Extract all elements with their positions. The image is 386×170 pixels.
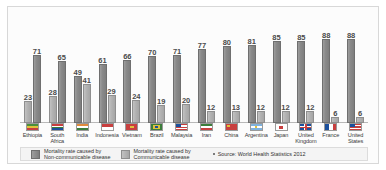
legend-item-non-communicable: Mortality rate caused by Non-communicabl… (31, 148, 111, 161)
axis-cell: United Kingdom (293, 123, 318, 147)
bar-value-label: 41 (82, 77, 90, 85)
bar-value-label: 61 (98, 57, 106, 65)
bar-group: 2865 (45, 15, 70, 123)
bar-wrapper: 85 (297, 15, 305, 123)
axis-cell: Ethiopia (20, 123, 45, 147)
bar-value-label: 19 (157, 98, 165, 106)
bar-wrapper: 80 (223, 15, 231, 123)
flag-icon-japan (275, 123, 288, 131)
bar-value-label: 88 (322, 32, 330, 40)
country-label: Argentina (245, 132, 268, 138)
bar-group: 2371 (20, 15, 45, 123)
bar-wrapper: 24 (132, 15, 140, 123)
bar-value-label: 80 (223, 39, 231, 47)
axis-cell: France (318, 123, 343, 147)
source-note: Source: World Health Statistics 2012 (213, 151, 306, 157)
flag-icon-indonesia (101, 123, 114, 131)
flag-icon-china (225, 123, 238, 131)
bar-wrapper: 71 (173, 15, 181, 123)
bar-communicable: 12 (282, 111, 290, 123)
flag-icon-vietnam (125, 123, 138, 131)
bar-wrapper: 71 (33, 15, 41, 123)
bar-wrapper: 70 (148, 15, 156, 123)
axis-cell: Malaysia (169, 123, 194, 147)
chart-card: 2371286549416129662470197120771280138112… (7, 6, 379, 164)
bar-wrapper: 28 (49, 15, 57, 123)
bar-communicable: 24 (132, 100, 140, 123)
bar-value-label: 81 (247, 38, 255, 46)
bar-value-label: 85 (272, 34, 280, 42)
bar-value-label: 70 (148, 49, 156, 57)
country-label: India (76, 132, 88, 138)
bar-wrapper: 12 (257, 15, 265, 123)
bar-wrapper: 29 (108, 15, 116, 123)
bar-group: 886 (318, 15, 343, 123)
axis-cell: India (70, 123, 95, 147)
bar-group: 8512 (269, 15, 294, 123)
category-axis: EthiopiaSouth AfricaIndiaIndonesiaVietna… (20, 123, 368, 147)
bar-non-communicable: 65 (58, 61, 66, 123)
legend-swatch-non-communicable (31, 150, 40, 159)
country-label: South Africa (50, 132, 64, 144)
country-label: United States (348, 132, 364, 144)
flag-icon-ethiopia (26, 123, 39, 131)
bar-value-label: 12 (281, 104, 289, 112)
bar-non-communicable: 88 (347, 39, 355, 123)
bar-groups: 2371286549416129662470197120771280138112… (20, 15, 368, 123)
bar-wrapper: 6 (331, 15, 339, 123)
bar-group: 6624 (119, 15, 144, 123)
bar-communicable: 13 (232, 111, 240, 123)
bar-value-label: 71 (173, 48, 181, 56)
bar-communicable: 12 (257, 111, 265, 123)
legend-label-communicable: Mortality rate caused by Communicable di… (134, 148, 191, 161)
bar-group: 7019 (144, 15, 169, 123)
axis-cell: Argentina (244, 123, 269, 147)
bar-wrapper: 88 (322, 15, 330, 123)
bar-wrapper: 19 (157, 15, 165, 123)
bar-value-label: 23 (24, 94, 32, 102)
chart-screenshot: 2371286549416129662470197120771280138112… (0, 0, 386, 170)
bullet-icon (213, 153, 215, 155)
bar-group: 886 (343, 15, 368, 123)
bar-non-communicable: 71 (173, 55, 181, 123)
bar-wrapper: 13 (232, 15, 240, 123)
source-text: Source: World Health Statistics 2012 (218, 151, 306, 157)
axis-cell: Iran (194, 123, 219, 147)
bar-wrapper: 66 (123, 15, 131, 123)
bar-non-communicable: 70 (148, 56, 156, 123)
flag-icon-united-kingdom (299, 123, 312, 131)
bar-non-communicable: 80 (223, 46, 231, 123)
legend-label-non-communicable: Mortality rate caused by Non-communicabl… (44, 148, 111, 161)
axis-cell: South Africa (45, 123, 70, 147)
bar-wrapper: 88 (347, 15, 355, 123)
bar-wrapper: 20 (182, 15, 190, 123)
axis-cell: Brazil (144, 123, 169, 147)
bar-value-label: 66 (123, 53, 131, 61)
bar-communicable: 41 (83, 84, 91, 123)
bar-value-label: 6 (333, 110, 337, 118)
axis-cell: China (219, 123, 244, 147)
country-label: Japan (274, 132, 289, 138)
bar-non-communicable: 61 (99, 64, 107, 123)
bar-value-label: 77 (198, 42, 206, 50)
bar-communicable: 28 (49, 96, 57, 123)
bar-value-label: 13 (232, 104, 240, 112)
bar-value-label: 85 (297, 34, 305, 42)
bar-non-communicable: 71 (33, 55, 41, 123)
flag-icon-brazil (150, 123, 163, 131)
bar-wrapper: 61 (99, 15, 107, 123)
axis-cell: Vietnam (119, 123, 144, 147)
country-label: Malaysia (171, 132, 192, 138)
country-label: China (224, 132, 238, 138)
country-label: France (322, 132, 339, 138)
bar-value-label: 71 (33, 48, 41, 56)
flag-icon-united-states (349, 123, 362, 131)
bar-communicable: 23 (24, 101, 32, 123)
bar-non-communicable: 66 (123, 60, 131, 123)
flag-icon-france (324, 123, 337, 131)
country-label: Iran (202, 132, 211, 138)
bar-non-communicable: 88 (322, 39, 330, 123)
chart-legend: Mortality rate caused by Non-communicabl… (20, 147, 368, 161)
bar-value-label: 28 (49, 89, 57, 97)
bar-group: 8112 (244, 15, 269, 123)
